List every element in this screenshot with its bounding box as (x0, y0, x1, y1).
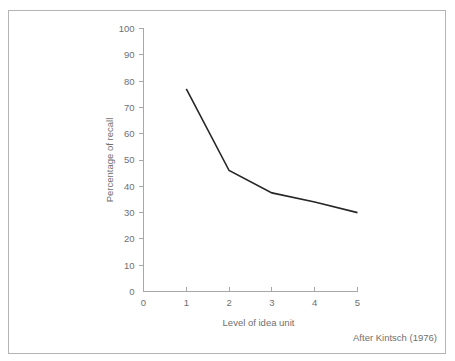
x-tick-label: 1 (184, 297, 189, 308)
chart-plot-area: 1009080706050403020100 012345 Level of i… (0, 0, 455, 361)
x-axis: 012345 (141, 287, 360, 308)
y-axis: 1009080706050403020100 (119, 23, 144, 297)
x-tick-label: 2 (226, 297, 231, 308)
y-tick-label: 40 (124, 181, 135, 192)
y-tick-label: 30 (124, 207, 135, 218)
y-tick-label: 100 (119, 23, 135, 34)
x-tick-label: 3 (269, 297, 274, 308)
line-chart: 1009080706050403020100 012345 Level of i… (0, 0, 455, 361)
y-tick-label: 0 (129, 286, 134, 297)
y-tick-label: 60 (124, 128, 135, 139)
y-tick-label: 10 (124, 260, 135, 271)
attribution-caption: After Kintsch (1976) (353, 332, 437, 343)
data-series-percentage-of-recall (186, 89, 357, 213)
figure-root: 1009080706050403020100 012345 Level of i… (0, 0, 455, 361)
x-tick-label: 5 (355, 297, 360, 308)
x-tick-label: 4 (312, 297, 317, 308)
y-axis-title: Percentage of recall (104, 118, 115, 203)
y-tick-label: 90 (124, 49, 135, 60)
data-line-percentage-of-recall (186, 89, 357, 213)
y-tick-label: 50 (124, 154, 135, 165)
y-tick-label: 20 (124, 233, 135, 244)
y-tick-label: 80 (124, 76, 135, 87)
x-tick-label: 0 (141, 297, 146, 308)
y-tick-label: 70 (124, 102, 135, 113)
x-axis-title: Level of idea unit (223, 317, 295, 328)
